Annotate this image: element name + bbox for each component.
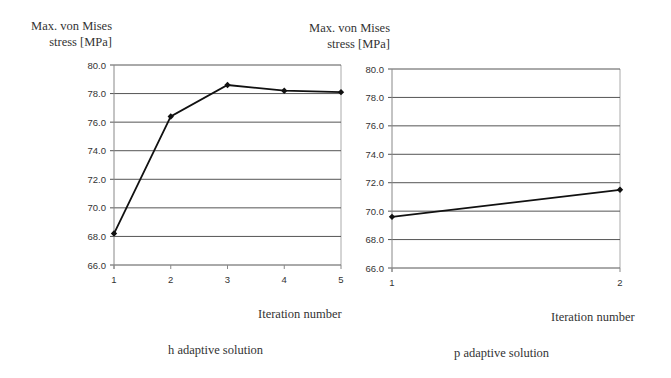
y-tick-label: 74.0 (366, 149, 385, 160)
y-tick-label: 74.0 (88, 145, 107, 156)
diamond-marker-icon (281, 88, 287, 94)
y-tick-label: 78.0 (366, 92, 385, 103)
y-tick-label: 76.0 (88, 117, 107, 128)
x-tick-label: 4 (282, 274, 287, 285)
y-tick-label: 72.0 (366, 177, 385, 188)
series-line (392, 190, 620, 217)
y-tick-label: 70.0 (366, 206, 385, 217)
x-tick-label: 3 (225, 274, 230, 285)
diamond-marker-icon (389, 214, 395, 220)
y-tick-label: 68.0 (366, 234, 385, 245)
x-tick-label: 2 (617, 277, 622, 288)
diamond-marker-icon (617, 187, 623, 193)
chart-h-adaptive: 66.068.070.072.074.076.078.080.012345 (88, 60, 345, 286)
y-tick-label: 66.0 (366, 263, 385, 274)
series-line (114, 85, 341, 234)
y-tick-label: 80.0 (366, 64, 385, 75)
diamond-marker-icon (111, 230, 117, 236)
x-tick-label: 5 (338, 274, 343, 285)
chart-p-adaptive: 66.068.070.072.074.076.078.080.012 (366, 64, 624, 289)
y-tick-label: 66.0 (88, 260, 107, 271)
x-tick-label: 1 (111, 274, 116, 285)
charts-canvas: 66.068.070.072.074.076.078.080.01234566.… (0, 0, 671, 378)
x-tick-label: 1 (389, 277, 394, 288)
y-tick-label: 80.0 (88, 60, 107, 71)
x-tick-label: 2 (168, 274, 173, 285)
y-tick-label: 76.0 (366, 120, 385, 131)
y-tick-label: 68.0 (88, 231, 107, 242)
y-tick-label: 72.0 (88, 174, 107, 185)
y-tick-label: 78.0 (88, 88, 107, 99)
diamond-marker-icon (338, 89, 344, 95)
y-tick-label: 70.0 (88, 202, 107, 213)
